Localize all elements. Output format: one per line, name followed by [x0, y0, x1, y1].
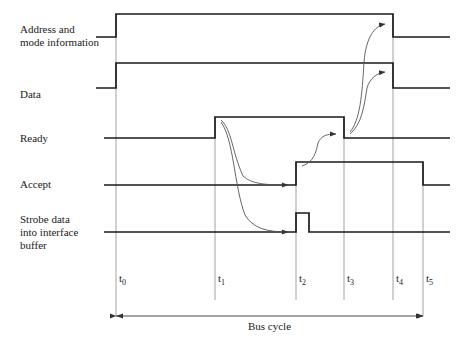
tick-sub-t2: 2: [302, 278, 306, 287]
signal-label-accept: Accept: [20, 178, 110, 191]
tick-sub-t3: 3: [350, 278, 354, 287]
tick-label-t2: t2: [299, 272, 306, 287]
waveform-ready-path: [104, 117, 450, 138]
bus-cycle-label: Bus cycle: [116, 320, 423, 332]
timing-diagram-canvas: [0, 0, 462, 342]
timing-diagram-figure: Address and mode information Data Ready …: [0, 0, 462, 342]
waveform-strobe-path: [104, 213, 450, 232]
waveform-data-path: [96, 63, 450, 88]
tick-sub-t0: 0: [122, 278, 126, 287]
bus-cycle-arrowhead-left: [116, 313, 123, 318]
causal-arrows: [221, 24, 385, 232]
tick-sub-t4: 4: [399, 278, 403, 287]
waveform-strobe: [104, 213, 450, 232]
tick-sub-t5: 5: [429, 278, 433, 287]
tick-label-t4: t4: [396, 272, 403, 287]
tick-label-t1: t1: [218, 272, 225, 287]
signal-label-ready: Ready: [20, 132, 110, 145]
waveform-address-path: [96, 14, 450, 37]
time-guide-lines: [116, 14, 423, 316]
waveform-accept: [104, 162, 450, 185]
arrow-ready-to-accept: [221, 120, 288, 185]
waveform-ready: [104, 117, 450, 138]
waveform-address: [96, 14, 450, 37]
waveform-accept-path: [104, 162, 450, 185]
bus-cycle-arrowhead-right: [416, 313, 423, 318]
tick-label-t0: t0: [119, 272, 126, 287]
signal-label-data: Data: [20, 88, 110, 101]
arrow-ready-fall-to-address: [350, 24, 385, 132]
arrow-ready-fall-to-data: [350, 72, 385, 134]
bus-cycle-arrow: [116, 313, 423, 318]
signal-label-address: Address and mode information: [20, 23, 110, 49]
signal-label-strobe: Strobe data into interface buffer: [20, 213, 110, 252]
waveform-data: [96, 63, 450, 88]
tick-sub-t1: 1: [221, 278, 225, 287]
tick-label-t5: t5: [426, 272, 433, 287]
tick-label-t3: t3: [347, 272, 354, 287]
